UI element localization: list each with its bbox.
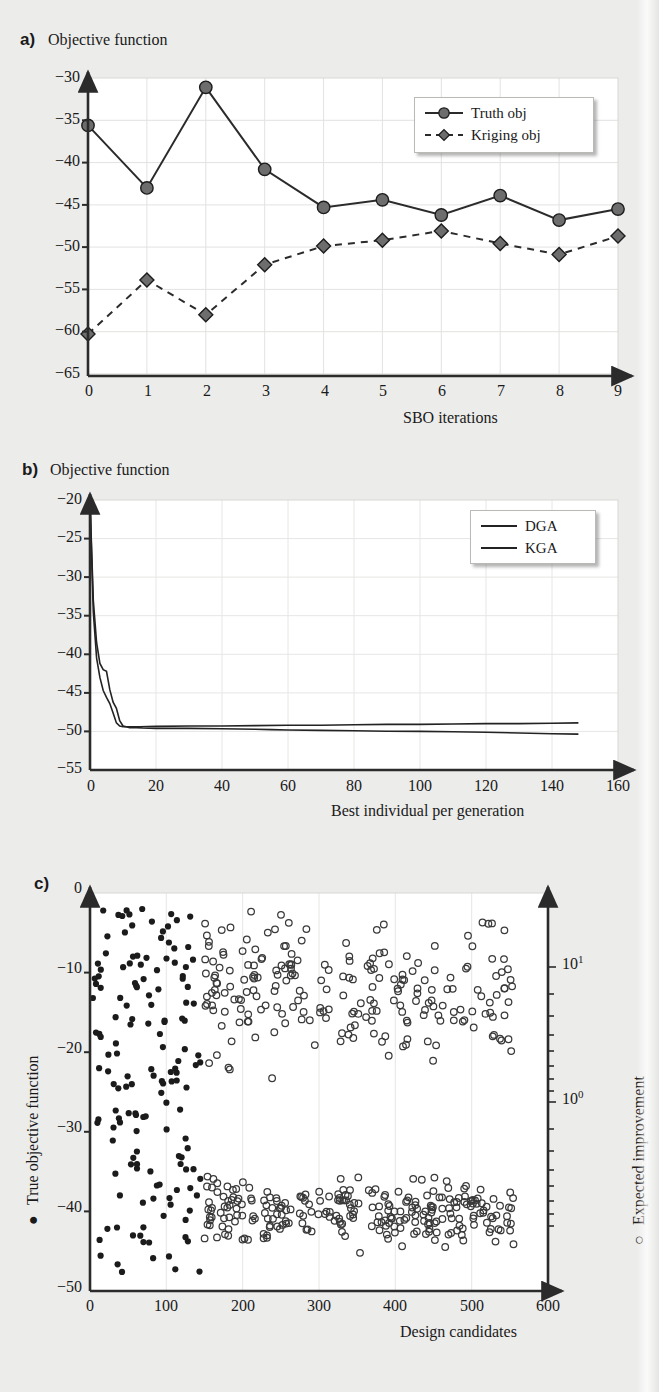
panel-c-xtick-0: 0 [82,1297,98,1315]
panel-b-ytick--20: −20 [30,490,82,508]
panel-b-xlabel: Best individual per generation [331,802,524,820]
panel-c-axes [62,873,582,1313]
panel-c-xtick-400: 400 [377,1297,413,1315]
panel-c-xtick-300: 300 [301,1297,337,1315]
panel-a-xtick-9: 9 [611,382,625,400]
panel-a-ytick--30: −30 [28,68,80,86]
kriging-obj-marker-icon [423,127,465,143]
panel-a-ytick--50: −50 [28,237,80,255]
panel-a-ytick--60: −60 [28,321,80,339]
panel-b-legend-item-dga: DGA [479,515,587,537]
panel-b-xtick-60: 60 [274,777,302,795]
panel-b-legend-label-kga: KGA [519,540,558,557]
panel-b-letter: b) [22,460,38,480]
panel-c-xtick-500: 500 [454,1297,490,1315]
kga-line-icon [479,541,519,555]
panel-c-ytick--50: −50 [30,1278,82,1296]
panel-a-xtick-0: 0 [82,382,96,400]
panel-a-legend-item-kriging: Kriging obj [423,124,585,146]
panel-c-ytick-0: 0 [36,879,82,897]
panel-c-right-ytick-10e0: 100 [562,1088,584,1108]
panel-b-legend-item-kga: KGA [479,537,587,559]
panel-a-ytick--55: −55 [28,279,80,297]
panel-b-xtick-0: 0 [83,777,99,795]
panel-a-ytick--65: −65 [28,364,80,382]
panel-b-xtick-80: 80 [340,777,368,795]
panel-b-xtick-100: 100 [402,777,438,795]
panel-a-letter: a) [20,30,35,50]
panel-a: a) Objective function [0,0,659,450]
panel-c-xtick-100: 100 [148,1297,184,1315]
panel-b-legend: DGA KGA [470,510,596,564]
panel-c-ylabel-left: ●True objective function [24,1055,42,1225]
panel-b: b) Objective function [0,450,659,845]
panel-b-ytick--45: −45 [30,682,82,700]
panel-a-ytick--40: −40 [28,152,80,170]
panel-b-ytick--40: −40 [30,644,82,662]
panel-b-xtick-40: 40 [208,777,236,795]
panel-a-xlabel: SBO iterations [403,409,498,427]
panel-a-ytick--45: −45 [28,195,80,213]
figure-page: a) Objective function [0,0,659,1392]
panel-a-ytick--35: −35 [28,110,80,128]
panel-b-ytick--55: −55 [30,759,82,777]
panel-c-right-ytick-10e1: 101 [562,953,584,973]
panel-a-xtick-3: 3 [259,382,273,400]
panel-b-ytick--30: −30 [30,567,82,585]
panel-b-xtick-140: 140 [534,777,570,795]
panel-a-xtick-1: 1 [141,382,155,400]
panel-a-xtick-2: 2 [200,382,214,400]
panel-a-xtick-8: 8 [553,382,567,400]
panel-a-legend-label-truth: Truth obj [465,105,527,122]
panel-b-ytick--25: −25 [30,528,82,546]
panel-c-xlabel: Design candidates [400,1323,517,1341]
panel-a-legend-item-truth: Truth obj [423,102,585,124]
panel-b-ytick--50: −50 [30,721,82,739]
panel-b-xtick-120: 120 [468,777,504,795]
panel-a-xtick-6: 6 [435,382,449,400]
panel-b-title: Objective function [50,461,170,479]
panel-a-xtick-7: 7 [494,382,508,400]
panel-c-xtick-200: 200 [225,1297,261,1315]
panel-c-xtick-600: 600 [530,1297,566,1315]
panel-a-legend: Truth obj Kriging obj [414,97,594,153]
panel-c-ylabel-right: ○Expected improvement [630,1076,648,1245]
truth-obj-marker-icon [423,105,465,121]
panel-b-xtick-160: 160 [600,777,636,795]
panel-a-title: Objective function [48,31,168,49]
dga-line-icon [479,519,519,533]
panel-b-xtick-20: 20 [142,777,170,795]
panel-a-xtick-5: 5 [376,382,390,400]
panel-a-legend-label-kriging: Kriging obj [465,127,541,144]
panel-b-ytick--35: −35 [30,605,82,623]
panel-a-xtick-4: 4 [318,382,332,400]
panel-b-legend-label-dga: DGA [519,518,558,535]
panel-c-ytick--10: −10 [30,959,82,977]
panel-c: c) [0,845,659,1392]
